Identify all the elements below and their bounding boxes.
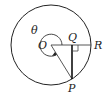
label-R: R <box>93 39 102 52</box>
right-angle-marker <box>72 45 78 51</box>
label-Q: Q <box>68 31 77 44</box>
label-theta: θ <box>31 24 38 37</box>
circle-diagram: θ O Q R P <box>0 0 109 99</box>
arrow-icon <box>52 52 57 56</box>
label-P: P <box>67 82 76 95</box>
label-O: O <box>38 39 47 52</box>
segment-OP <box>51 45 72 79</box>
diagram-canvas: θ O Q R P <box>0 0 109 99</box>
